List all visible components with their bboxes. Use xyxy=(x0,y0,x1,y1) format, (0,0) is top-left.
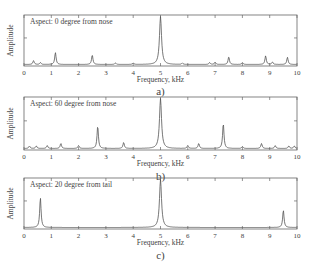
aspect-annotation: Aspect: 60 degree from nose xyxy=(30,99,117,108)
chart-panel-2: 012345678910Aspect: 60 degree from noseA… xyxy=(6,97,301,183)
x-tick-label: 9 xyxy=(268,69,272,77)
aspect-annotation: Aspect: 0 degree from nose xyxy=(30,17,113,26)
spectrum-figure: 012345678910Aspect: 0 degree from noseAm… xyxy=(0,0,317,274)
x-tick-label: 8 xyxy=(241,153,245,161)
panel-caption: a) xyxy=(156,85,165,98)
x-tick-label: 0 xyxy=(22,69,26,77)
x-tick-label: 2 xyxy=(77,153,81,161)
x-tick-label: 1 xyxy=(50,153,54,161)
x-tick-label: 3 xyxy=(104,153,108,161)
x-tick-label: 2 xyxy=(77,232,81,240)
x-tick-label: 6 xyxy=(186,69,190,77)
x-tick-label: 10 xyxy=(294,153,302,161)
y-axis-label: Amplitude xyxy=(6,24,15,57)
x-axis-label: Frequency, kHz xyxy=(137,238,185,247)
x-tick-label: 4 xyxy=(131,153,135,161)
x-tick-label: 3 xyxy=(104,232,108,240)
x-tick-label: 0 xyxy=(22,153,26,161)
y-axis-label: Amplitude xyxy=(6,107,15,140)
x-tick-label: 9 xyxy=(268,153,272,161)
x-tick-label: 2 xyxy=(77,69,81,77)
x-tick-label: 8 xyxy=(241,232,245,240)
panel-caption: c) xyxy=(156,249,165,262)
x-tick-label: 4 xyxy=(131,69,135,77)
x-axis-label: Frequency, kHz xyxy=(137,75,185,84)
x-tick-label: 3 xyxy=(104,69,108,77)
x-tick-label: 8 xyxy=(241,69,245,77)
x-axis-label: Frequency, kHz xyxy=(137,159,185,168)
y-axis-label: Amplitude xyxy=(6,187,15,220)
x-tick-label: 4 xyxy=(131,232,135,240)
aspect-annotation: Aspect: 20 degree from tail xyxy=(30,180,112,189)
x-tick-label: 0 xyxy=(22,232,26,240)
x-tick-label: 7 xyxy=(213,69,217,77)
x-tick-label: 7 xyxy=(213,153,217,161)
chart-panel-1: 012345678910Aspect: 0 degree from noseAm… xyxy=(6,15,301,98)
x-tick-label: 6 xyxy=(186,153,190,161)
x-tick-label: 7 xyxy=(213,232,217,240)
chart-panel-3: 012345678910Aspect: 20 degree from tailA… xyxy=(6,178,301,262)
x-tick-label: 1 xyxy=(50,232,54,240)
x-tick-label: 1 xyxy=(50,69,54,77)
x-tick-label: 10 xyxy=(294,69,302,77)
x-tick-label: 10 xyxy=(294,232,302,240)
x-tick-label: 9 xyxy=(268,232,272,240)
x-tick-label: 6 xyxy=(186,232,190,240)
